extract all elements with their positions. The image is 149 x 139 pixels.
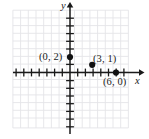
y-axis-arrow [67,2,74,8]
data-point-0-2[interactable] [67,54,73,60]
point-label-3-1: (3, 1) [93,54,116,65]
point-label-0-2: (0, 2) [39,52,62,63]
coordinate-plane-figure: (0, 2) (3, 1) (6, 0) y x [0,0,149,139]
y-axis-label: y [61,1,66,12]
data-point-6-0[interactable] [113,69,119,75]
coordinate-plane-canvas [0,0,149,139]
y-axis [67,2,74,134]
point-label-6-0: (6, 0) [103,77,126,88]
x-axis-label: x [135,76,140,87]
x-axis [13,69,145,76]
